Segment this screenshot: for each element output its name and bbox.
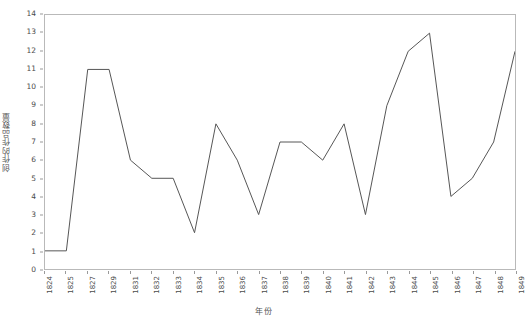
y-tick-label: 6 — [31, 157, 36, 165]
y-tick-mark — [40, 251, 43, 252]
x-tick-label: 1838 — [283, 276, 290, 294]
y-tick-mark — [40, 50, 43, 51]
line-chart: 创作的作品数量 01234567891011121314 18241825182… — [0, 0, 527, 326]
x-tick-mark — [130, 271, 131, 274]
y-tick-mark — [40, 32, 43, 33]
x-tick-label: 1833 — [176, 276, 183, 294]
x-tick-label: 1824 — [47, 276, 54, 294]
x-tick-label: 1843 — [390, 276, 397, 294]
x-tick-mark — [430, 271, 431, 274]
x-tick-mark — [216, 271, 217, 274]
x-tick-label: 1845 — [433, 276, 440, 294]
x-tick-label: 1846 — [455, 276, 462, 294]
x-tick-label: 1841 — [347, 276, 354, 294]
y-tick-label: 3 — [31, 211, 36, 219]
y-tick-label: 12 — [26, 47, 36, 55]
x-tick-label: 1849 — [519, 276, 526, 294]
x-tick-label: 1835 — [219, 276, 226, 294]
x-tick-label: 1829 — [111, 276, 118, 294]
x-tick-label: 1842 — [369, 276, 376, 294]
x-tick-label: 1827 — [90, 276, 97, 294]
x-tick-mark — [237, 271, 238, 274]
y-tick-mark — [40, 105, 43, 106]
y-tick-mark — [40, 215, 43, 216]
x-tick-label: 1832 — [154, 276, 161, 294]
x-tick-mark — [108, 271, 109, 274]
x-tick-mark — [87, 271, 88, 274]
x-tick-label: 1831 — [133, 276, 140, 294]
y-tick-mark — [40, 14, 43, 15]
y-tick-mark — [40, 123, 43, 124]
plot-area — [44, 14, 516, 270]
x-axis-title: 年份 — [0, 305, 527, 316]
x-tick-mark — [280, 271, 281, 274]
y-tick-label: 13 — [26, 29, 36, 37]
x-tick-mark — [516, 271, 517, 274]
x-tick-label: 1837 — [262, 276, 269, 294]
y-tick-mark — [40, 68, 43, 69]
y-tick-mark — [40, 87, 43, 88]
y-tick-mark — [40, 196, 43, 197]
x-tick-label: 1844 — [412, 276, 419, 294]
x-tick-mark — [452, 271, 453, 274]
y-tick-label: 4 — [31, 193, 36, 201]
x-tick-label: 1825 — [68, 276, 75, 294]
series-line — [45, 15, 515, 269]
y-tick-mark — [40, 178, 43, 179]
x-tick-mark — [259, 271, 260, 274]
x-tick-mark — [194, 271, 195, 274]
y-tick-mark — [40, 233, 43, 234]
x-tick-mark — [473, 271, 474, 274]
x-tick-mark — [44, 271, 45, 274]
y-tick-mark — [40, 142, 43, 143]
x-tick-label: 1834 — [197, 276, 204, 294]
x-tick-label: 1847 — [476, 276, 483, 294]
x-tick-mark — [151, 271, 152, 274]
x-tick-label: 1848 — [498, 276, 505, 294]
x-tick-mark — [344, 271, 345, 274]
x-tick-mark — [65, 271, 66, 274]
y-tick-label: 2 — [31, 230, 36, 238]
series-polyline — [45, 33, 515, 251]
y-tick-label: 1 — [31, 248, 36, 256]
y-tick-label: 11 — [26, 65, 36, 73]
x-tick-mark — [173, 271, 174, 274]
y-tick-mark — [40, 160, 43, 161]
x-tick-mark — [387, 271, 388, 274]
x-tick-label: 1836 — [240, 276, 247, 294]
x-tick-mark — [409, 271, 410, 274]
x-tick-mark — [301, 271, 302, 274]
y-tick-label: 10 — [26, 83, 36, 91]
y-tick-label: 9 — [31, 102, 36, 110]
x-tick-label: 1839 — [304, 276, 311, 294]
y-tick-label: 5 — [31, 175, 36, 183]
x-tick-mark — [323, 271, 324, 274]
y-tick-label: 14 — [26, 10, 36, 18]
y-tick-label: 8 — [31, 120, 36, 128]
x-tick-label: 1840 — [326, 276, 333, 294]
y-tick-label: 7 — [31, 138, 36, 146]
x-tick-mark — [495, 271, 496, 274]
x-tick-mark — [366, 271, 367, 274]
